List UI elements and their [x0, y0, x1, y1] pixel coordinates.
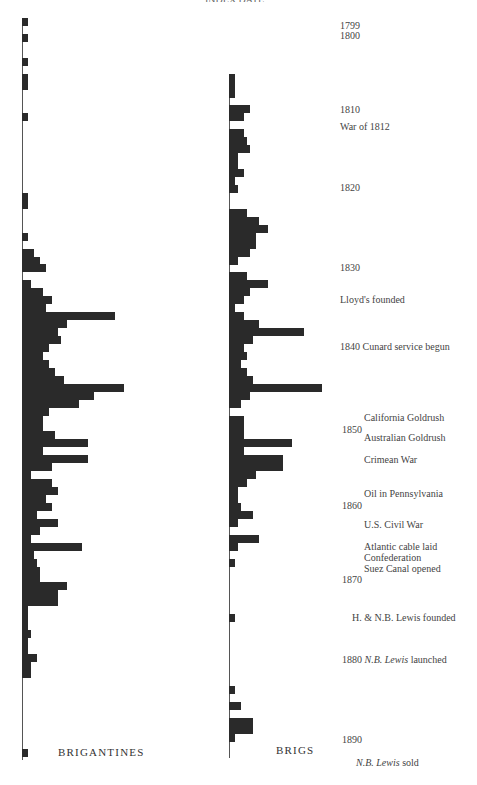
bar-1837: [229, 320, 259, 328]
bar-1823: [229, 209, 247, 217]
event-lloyds-founded: Lloyd's founded: [340, 294, 405, 305]
bar-1835: [229, 304, 235, 312]
bar-1854: [22, 455, 88, 463]
bar-1848: [22, 408, 49, 416]
bar-1867: [229, 559, 235, 567]
bar-1820: [229, 185, 238, 193]
bar-1826: [229, 233, 256, 241]
brigantines-series-label: BRIGANTINES: [58, 746, 145, 758]
bar-1854: [229, 455, 283, 463]
year-label-1850: 1850: [342, 424, 362, 435]
bar-1864: [229, 535, 259, 543]
event-crimean-war: Crimean War: [364, 454, 417, 465]
year-label-1810: 1810: [340, 104, 360, 115]
bar-1881: [22, 670, 31, 678]
bar-1880: [22, 662, 31, 670]
bar-1864: [22, 535, 31, 543]
bar-1821: [22, 193, 28, 201]
bar-1818: [229, 169, 244, 177]
bar-1862: [22, 519, 58, 527]
bar-1879: [22, 654, 37, 662]
bar-1829: [229, 257, 238, 265]
bar-1875: [22, 622, 28, 630]
bar-1806: [22, 74, 28, 82]
bar-1863: [22, 527, 40, 535]
bar-1860: [22, 503, 52, 511]
brigs-series-label: BRIGS: [276, 744, 314, 756]
bar-1855: [22, 463, 52, 471]
bar-1815: [229, 145, 250, 153]
bar-1839: [229, 336, 253, 344]
bar-1858: [229, 487, 238, 495]
bar-1835: [22, 304, 46, 312]
cropped-heading: INDEX DATE: [205, 0, 275, 2]
bar-1872: [22, 598, 58, 606]
launched-year: 1880: [342, 654, 362, 665]
bar-1874: [229, 614, 235, 622]
year-label-1860: 1860: [342, 500, 362, 511]
bar-1844: [22, 376, 64, 384]
bar-1885: [229, 702, 241, 710]
bar-1862: [229, 519, 238, 527]
bar-1837: [22, 320, 67, 328]
bar-1804: [22, 58, 28, 66]
bar-1856: [229, 471, 256, 479]
bar-1843: [22, 368, 55, 376]
bar-1888: [229, 726, 253, 734]
bar-1843: [229, 368, 247, 376]
bar-1850: [22, 423, 43, 431]
bar-1807: [229, 82, 235, 90]
bar-1828: [229, 249, 250, 257]
event-oil-in-pennsylvania: Oil in Pennsylvania: [364, 488, 443, 499]
bar-1867: [22, 559, 37, 567]
bar-1865: [229, 543, 238, 551]
bar-1806: [229, 74, 235, 82]
bar-1817: [229, 161, 238, 169]
bar-1824: [229, 217, 259, 225]
bar-1838: [229, 328, 304, 336]
bar-1831: [229, 272, 247, 280]
bar-1865: [22, 543, 82, 551]
event-australian-goldrush: Australian Goldrush: [364, 432, 445, 443]
historical-bar-chart: INDEX DATE BRIGANTINES BRIGS 1799 1800 1…: [0, 0, 477, 785]
bar-1801: [22, 34, 28, 42]
event-war-of-1812: War of 1812: [340, 121, 390, 132]
year-label-1870: 1870: [342, 574, 362, 585]
bar-1858: [22, 487, 58, 495]
bar-1846: [229, 392, 250, 400]
bar-1871: [22, 590, 58, 598]
bar-1851: [229, 431, 244, 439]
bar-1889: [229, 734, 235, 742]
bar-1836: [229, 312, 244, 320]
bar-1813: [229, 129, 244, 137]
bar-1857: [229, 479, 247, 487]
event-nb-lewis-launched: 1880 N.B. Lewis launched: [342, 654, 447, 665]
bar-1819: [229, 177, 235, 185]
bar-1833: [229, 288, 250, 296]
bar-1861: [22, 511, 37, 519]
event-atlantic-cable: Atlantic cable laid: [364, 541, 437, 552]
bar-1840: [229, 344, 244, 352]
bar-1851: [22, 431, 55, 439]
bar-1842: [22, 360, 49, 368]
launched-text: launched: [411, 654, 447, 665]
sold-text: sold: [402, 757, 419, 768]
bar-1810: [229, 105, 250, 113]
bar-1846: [22, 392, 94, 400]
bar-1844: [229, 376, 253, 384]
bar-1868: [22, 567, 40, 575]
year-label-1830: 1830: [340, 262, 360, 273]
bar-1827: [229, 241, 256, 249]
bar-1873: [22, 606, 28, 614]
launched-ship-name: N.B. Lewis: [365, 654, 409, 665]
bar-1836: [22, 312, 115, 320]
bar-1847: [22, 400, 79, 408]
bar-1852: [22, 439, 88, 447]
bar-1874: [22, 614, 28, 622]
bar-1866: [22, 551, 34, 559]
bar-1814: [229, 137, 247, 145]
bar-1847: [229, 400, 241, 408]
bar-1822: [22, 201, 28, 209]
bar-1840: [22, 344, 49, 352]
year-label-1820: 1820: [340, 182, 360, 193]
